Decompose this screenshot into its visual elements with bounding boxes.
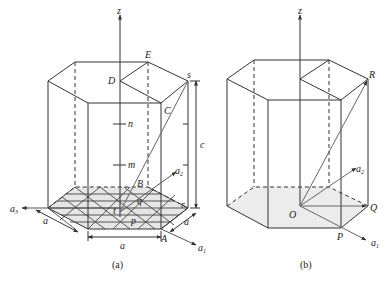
dimension-a-right-label: a bbox=[184, 216, 189, 227]
axis-a1-label-a: a1 bbox=[198, 242, 206, 254]
caption-a: (a) bbox=[112, 259, 123, 271]
vertex-o-label: O bbox=[289, 209, 296, 220]
dimension-a-bottom-label: a bbox=[120, 240, 125, 251]
axis-a2-label-b: a2 bbox=[356, 163, 364, 175]
dimension-a-left-label: a bbox=[43, 215, 48, 226]
vertex-s-label: s bbox=[187, 69, 191, 80]
vertex-b-label: B bbox=[137, 178, 143, 189]
vertex-c-label: C bbox=[164, 105, 171, 116]
axis-a3-label: a3 bbox=[10, 203, 18, 215]
vertex-q-label-b: Q bbox=[370, 202, 378, 213]
basal-plane-b bbox=[227, 187, 368, 228]
marker-m-label: m bbox=[128, 159, 135, 170]
marker-n-label: n bbox=[128, 118, 133, 129]
hexagonal-lattice-diagram: z E D s C B r A p q t n m c a a a a3 a2 … bbox=[0, 0, 391, 281]
vertex-r-label-b: R bbox=[368, 69, 375, 80]
z-axis-label-a: z bbox=[116, 5, 121, 16]
vertex-d-label: D bbox=[107, 75, 116, 86]
figure-a bbox=[22, 15, 200, 245]
z-axis-label-b: z bbox=[297, 5, 302, 16]
top-hexagon-a bbox=[48, 62, 188, 103]
vertex-p-label: p bbox=[130, 215, 136, 226]
top-hexagon-b bbox=[227, 60, 368, 100]
vertex-q-label: q bbox=[137, 195, 142, 206]
vertex-e-label: E bbox=[144, 49, 151, 60]
axis-a1-label-b: a1 bbox=[371, 237, 379, 249]
caption-b: (b) bbox=[300, 259, 312, 271]
vertex-r-label: r bbox=[181, 199, 185, 210]
figure-b bbox=[227, 15, 368, 240]
axis-a2-label-a: a2 bbox=[175, 165, 183, 177]
vertex-p-label-b: P bbox=[336, 231, 343, 242]
vertex-a-label: A bbox=[160, 233, 168, 244]
dimension-c-label: c bbox=[200, 139, 205, 150]
vertex-t-label: t bbox=[113, 205, 116, 216]
